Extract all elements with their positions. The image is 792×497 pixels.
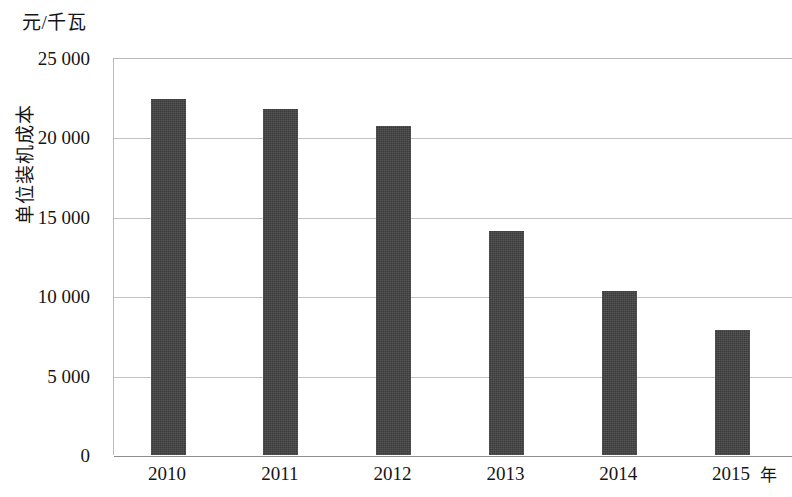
plot-area xyxy=(113,58,792,455)
y-axis-title: 单位装机成本 xyxy=(10,49,37,279)
x-tick-label-2011: 2011 xyxy=(220,464,340,484)
bar-2014 xyxy=(602,291,637,455)
x-tick-label-2010: 2010 xyxy=(107,464,227,484)
y-tick-label: 10 000 xyxy=(0,287,90,306)
x-tick-label-2012: 2012 xyxy=(333,464,453,484)
bar-2015 xyxy=(715,330,750,455)
y-tick-label: 0 xyxy=(0,446,90,465)
y-tick-label: 15 000 xyxy=(0,208,90,227)
y-tick-label: 25 000 xyxy=(0,49,90,68)
bar-2010 xyxy=(151,99,186,455)
y-tick-label: 20 000 xyxy=(0,128,90,147)
x-tick-label-2013: 2013 xyxy=(445,464,565,484)
x-tick-label-2014: 2014 xyxy=(558,464,678,484)
x-axis-line xyxy=(114,456,792,457)
bar-2011 xyxy=(263,109,298,455)
bar-2013 xyxy=(489,231,524,455)
bar-chart-figure: 元/千瓦 单位装机成本 05 00010 00015 00020 00025 0… xyxy=(0,0,792,497)
y-tick-label: 5 000 xyxy=(0,367,90,386)
x-axis-title: 年 xyxy=(760,466,777,486)
bar-2012 xyxy=(376,126,411,455)
y-axis-unit-label: 元/千瓦 xyxy=(22,10,86,36)
bars-group xyxy=(114,59,792,455)
